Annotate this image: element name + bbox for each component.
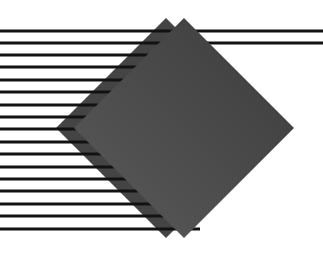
abstract-graphic [0,0,323,260]
stripe-line [0,228,200,231]
stripe-line [0,30,323,33]
